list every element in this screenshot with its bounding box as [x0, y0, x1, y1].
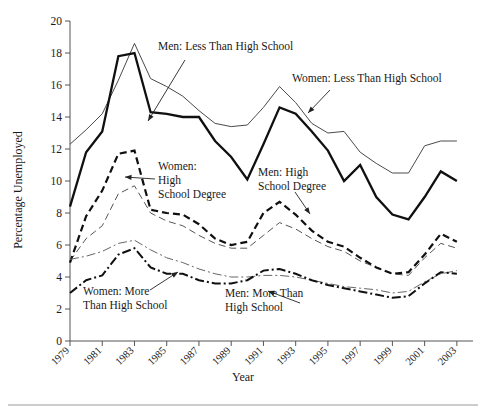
unemployment-line-chart: 0246810121416182019791981198319851987198…	[0, 0, 486, 415]
series-line-0	[70, 43, 457, 173]
y-tick-label: 14	[51, 111, 63, 123]
x-axis-title: Year	[232, 370, 254, 384]
annotation-arrowhead	[304, 207, 310, 214]
annotation-label: Men: High	[258, 166, 308, 179]
annotation-women-less-than-high-school: Women: Less Than High School	[292, 72, 442, 113]
annotation-men-high-school-degree: Men: HighSchool Degree	[258, 166, 326, 214]
y-tick-label: 2	[56, 303, 62, 315]
y-tick-label: 8	[56, 207, 62, 219]
chart-canvas: 0246810121416182019791981198319851987198…	[0, 0, 486, 415]
y-tick-label: 4	[56, 271, 62, 283]
annotation-women-more-than-high-school: Women: MoreThan High School	[83, 272, 178, 312]
y-tick-label: 6	[56, 239, 62, 251]
annotation-label: Women: Less Than High School	[292, 72, 442, 85]
annotation-label: High School	[225, 301, 283, 314]
x-tick-label: 1985	[146, 345, 169, 368]
annotation-label: Than High School	[83, 299, 167, 312]
x-tick-label: 1981	[81, 345, 104, 368]
y-axis-title: Percentage Unemployed	[11, 131, 25, 249]
annotation-men-more-than-high-school: Men: More ThanHigh School	[225, 287, 304, 314]
annotation-label: School Degree	[258, 180, 326, 193]
annotation-label: Men: Less Than High School	[158, 40, 293, 53]
annotation-label: School Degree	[158, 188, 226, 201]
annotation-label: Men: More Than	[225, 287, 304, 299]
y-tick-label: 10	[51, 175, 63, 187]
annotation-arrowhead	[148, 114, 154, 121]
x-tick-label: 1989	[210, 345, 233, 368]
x-tick-label: 2003	[436, 345, 459, 368]
annotation-label: High	[158, 174, 181, 187]
x-tick-label: 1999	[371, 345, 394, 368]
x-tick-label: 1993	[274, 345, 297, 368]
x-tick-label: 1983	[113, 345, 136, 368]
x-tick-label: 1991	[242, 345, 265, 368]
y-tick-label: 16	[51, 79, 63, 91]
annotation-arrowhead	[171, 272, 178, 278]
y-tick-label: 18	[51, 47, 63, 59]
annotation-label: Women:	[158, 160, 197, 172]
x-tick-label: 1979	[49, 345, 72, 368]
x-tick-label: 1987	[178, 345, 201, 368]
y-tick-label: 20	[51, 15, 63, 27]
x-tick-label: 2001	[403, 345, 426, 368]
annotation-label: Women: More	[83, 285, 149, 297]
y-tick-label: 0	[56, 335, 62, 347]
annotation-leader-line	[148, 60, 185, 121]
x-tick-label: 1997	[339, 345, 362, 368]
x-tick-label: 1995	[307, 345, 330, 368]
annotation-men-less-than-high-school: Men: Less Than High School	[148, 40, 293, 121]
annotation-arrowhead	[125, 175, 132, 180]
series-line-2	[70, 186, 457, 276]
y-tick-label: 12	[51, 143, 63, 155]
